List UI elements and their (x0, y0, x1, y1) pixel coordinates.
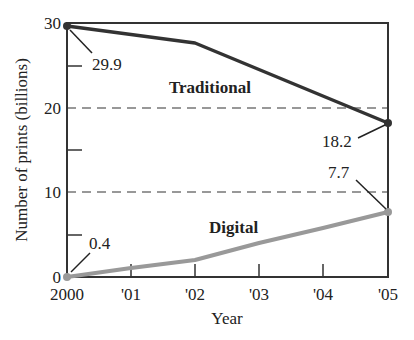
traditional-point-2005 (384, 119, 392, 127)
x-tick-label-2000: 2000 (50, 285, 84, 304)
x-axis-title: Year (211, 309, 243, 328)
x-tick-label-03: '03 (249, 285, 269, 304)
y-tick-label-30: 30 (44, 14, 61, 33)
traditional-end-leader (358, 125, 385, 138)
traditional-point-2000 (63, 22, 71, 30)
traditional-series-label: Traditional (169, 78, 251, 97)
x-tick-label-01: '01 (121, 285, 141, 304)
x-tick-label-04: '04 (313, 285, 334, 304)
digital-end-value: 7.7 (328, 163, 350, 182)
x-tick-label-05: '05 (378, 285, 398, 304)
digital-start-value: 0.4 (89, 234, 111, 253)
traditional-start-leader (70, 30, 92, 53)
y-tick-label-20: 20 (44, 99, 61, 118)
y-tick-label-10: 10 (44, 183, 61, 202)
y-axis-title: Number of prints (billions) (12, 58, 31, 242)
digital-start-leader (71, 253, 90, 272)
traditional-start-value: 29.9 (92, 55, 122, 74)
line-chart: 0 10 20 30 2000 '01 '02 '03 '04 '05 Year… (0, 0, 414, 340)
traditional-end-value: 18.2 (322, 132, 352, 151)
x-tick-label-02: '02 (185, 285, 205, 304)
digital-series-label: Digital (209, 218, 258, 237)
digital-point-2000 (63, 273, 71, 281)
digital-end-leader (356, 180, 386, 209)
